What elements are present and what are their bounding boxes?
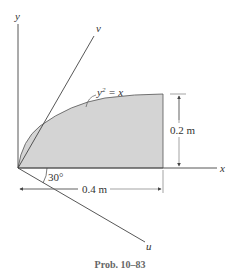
curve-label: y2 = x xyxy=(96,86,123,98)
v-axis-label: v xyxy=(96,22,101,34)
u-axis-label: u xyxy=(146,240,152,252)
width-dimension-label: 0.4 m xyxy=(82,183,108,195)
y-axis-label: y xyxy=(14,10,20,22)
figure-caption: Prob. 10–83 xyxy=(95,259,146,270)
angle-label: 30° xyxy=(48,171,63,183)
angle-arc xyxy=(43,168,47,183)
height-dimension-label: 0.2 m xyxy=(170,124,196,136)
problem-figure: y x v u 30° y2 = x 0.2 m 0.4 m Prob. 10–… xyxy=(0,0,240,274)
u-axis xyxy=(18,168,145,242)
x-axis-label: x xyxy=(219,162,225,174)
